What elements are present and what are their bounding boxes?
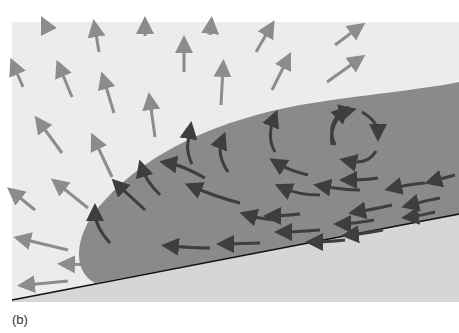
panel-label: (b) (12, 312, 28, 327)
flow-diagram (0, 0, 459, 333)
